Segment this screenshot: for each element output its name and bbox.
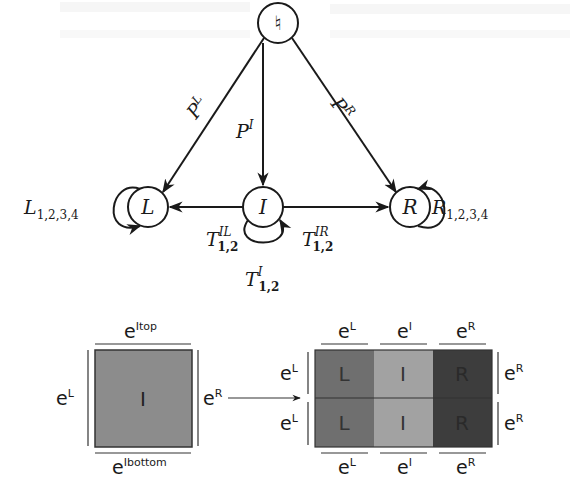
node-top-label: ♮ (274, 11, 281, 35)
split-edge-top-I: eI (397, 320, 412, 342)
node-center-label: I (258, 195, 268, 219)
node-right-label: R (401, 195, 417, 219)
split-edge-right-bottom: eR (504, 412, 524, 434)
node-left-label: L (140, 195, 154, 219)
split-label-L-bottom: L (338, 411, 350, 435)
edge-top-to-right (292, 38, 396, 192)
edge-label-left: eL (56, 387, 75, 409)
split-edge-bottom-L: eL (338, 456, 357, 478)
split-edge-left-top: eL (280, 362, 299, 384)
label-T-IR: TIR1,2 (302, 225, 333, 254)
diagram-canvas: ♮ L I R PL PI PR TIL1,2 TIR1,2 TI1,2 L1,… (0, 0, 583, 494)
split-edge-bottom-I: eI (397, 456, 412, 478)
split-edge-top-R: eR (456, 320, 476, 342)
split-edge-left-bottom: eL (280, 412, 299, 434)
split-block-group: L L I I R R eL eI eR eL eI eR eL eL eR e… (280, 320, 524, 478)
label-P-I: PI (235, 118, 254, 142)
split-label-I-bottom: I (400, 411, 406, 435)
label-L-self: L1,2,3,4 (23, 196, 79, 222)
split-edge-top-L: eL (338, 320, 357, 342)
split-label-R-top: R (455, 362, 469, 386)
label-T-I: TI1,2 (245, 265, 279, 294)
edge-label-top: eItop (124, 320, 157, 342)
split-edge-bottom-R: eR (456, 456, 476, 478)
edge-label-right: eR (203, 387, 223, 409)
diagram-svg: ♮ L I R PL PI PR TIL1,2 TIR1,2 TI1,2 L1,… (0, 0, 583, 494)
single-block-label: I (140, 387, 146, 411)
label-R-self: R1,2,3,4 (431, 196, 489, 222)
label-T-IL: TIL1,2 (206, 225, 238, 254)
split-label-I-top: I (400, 362, 406, 386)
label-P-L: PL (180, 92, 212, 123)
svg-text:PL: PL (180, 92, 212, 123)
background-bleed-text (60, 2, 570, 38)
single-block-group: I eItop eIbottom eL eR (56, 320, 223, 478)
split-edge-right-top: eR (504, 362, 524, 384)
edge-top-to-left (163, 38, 264, 192)
edge-label-bottom: eIbottom (112, 456, 167, 478)
state-graph (114, 3, 445, 243)
split-label-R-bottom: R (455, 411, 469, 435)
split-label-L-top: L (338, 362, 350, 386)
